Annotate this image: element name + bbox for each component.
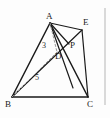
measure-label-BD: 5 — [35, 73, 39, 82]
edge-A-B — [12, 23, 50, 97]
solid-edges-group — [12, 23, 88, 97]
vertex-label-E: E — [83, 18, 89, 27]
vertex-label-D: D — [55, 52, 62, 61]
vertex-label-B: B — [5, 100, 11, 109]
vertex-label-C: C — [87, 100, 93, 109]
vertex-label-A: A — [46, 12, 53, 21]
geometry-figure: A B C D E P 3 5 — [0, 0, 110, 118]
measure-label-AD: 3 — [42, 41, 46, 50]
vertex-label-P: P — [70, 41, 75, 50]
